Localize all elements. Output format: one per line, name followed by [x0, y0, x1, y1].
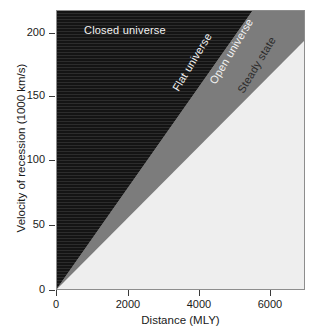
y-axis-title: Velocity of recession (1000 km/s) — [15, 14, 27, 282]
chart-figure: Closed universe Flat universe Open unive… — [0, 0, 314, 332]
x-tick-mark-2000 — [128, 290, 129, 296]
x-tick-mark-4000 — [199, 290, 200, 296]
y-tick-mark-100 — [49, 160, 55, 161]
y-tick-mark-0 — [49, 290, 55, 291]
x-tick-label-6000: 6000 — [247, 298, 293, 310]
x-tick-mark-6000 — [270, 290, 271, 296]
x-tick-label-0: 0 — [33, 298, 79, 310]
y-tick-mark-200 — [49, 33, 55, 34]
x-tick-label-4000: 4000 — [176, 298, 222, 310]
region-label-closed-universe: Closed universe — [84, 24, 166, 36]
x-tick-mark-0 — [56, 290, 57, 296]
y-tick-mark-150 — [49, 96, 55, 97]
y-tick-label-0: 0 — [7, 283, 45, 295]
x-axis-title: Distance (MLY) — [56, 314, 305, 326]
x-tick-label-2000: 2000 — [105, 298, 151, 310]
y-tick-mark-50 — [49, 225, 55, 226]
